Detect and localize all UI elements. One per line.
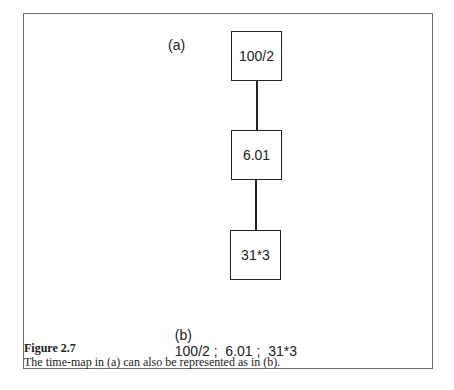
edge-2-3 [255, 180, 257, 230]
node-3-label: 31*3 [241, 247, 270, 263]
node-1-label: 100/2 [239, 48, 274, 64]
node-2: 6.01 [231, 130, 282, 180]
edge-1-2 [256, 81, 258, 130]
node-3: 31*3 [230, 230, 281, 280]
panel-b-representation: (b) 100/2 ; 6.01 ; 31*3 [167, 311, 297, 359]
node-2-label: 6.01 [243, 147, 270, 163]
panel-b-label: (b) [175, 327, 192, 343]
figure-number: Figure 2.7 [24, 341, 76, 356]
figure-caption: The time-map in (a) can also be represen… [24, 355, 280, 370]
node-1: 100/2 [231, 31, 282, 81]
panel-a-label: (a) [168, 37, 185, 53]
